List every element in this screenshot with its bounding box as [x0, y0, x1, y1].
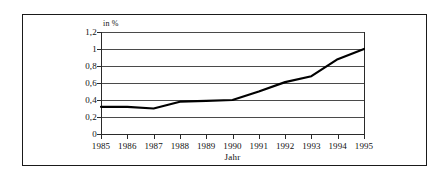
data-series-line — [23, 15, 428, 167]
x-axis-title: Jahr — [101, 152, 364, 162]
y-axis-tick-mark — [97, 66, 102, 67]
y-axis-tick-mark — [97, 100, 102, 101]
figure-frame: in % 00,20,40,60,811,2 19851986198719881… — [22, 14, 427, 166]
y-axis-tick-mark — [97, 117, 102, 118]
y-axis-tick-mark — [97, 134, 102, 135]
y-axis-tick-mark — [97, 83, 102, 84]
line-chart: in % 00,20,40,60,811,2 19851986198719881… — [23, 15, 428, 167]
y-axis-tick-mark — [97, 49, 102, 50]
y-axis-tick-mark — [97, 32, 102, 33]
